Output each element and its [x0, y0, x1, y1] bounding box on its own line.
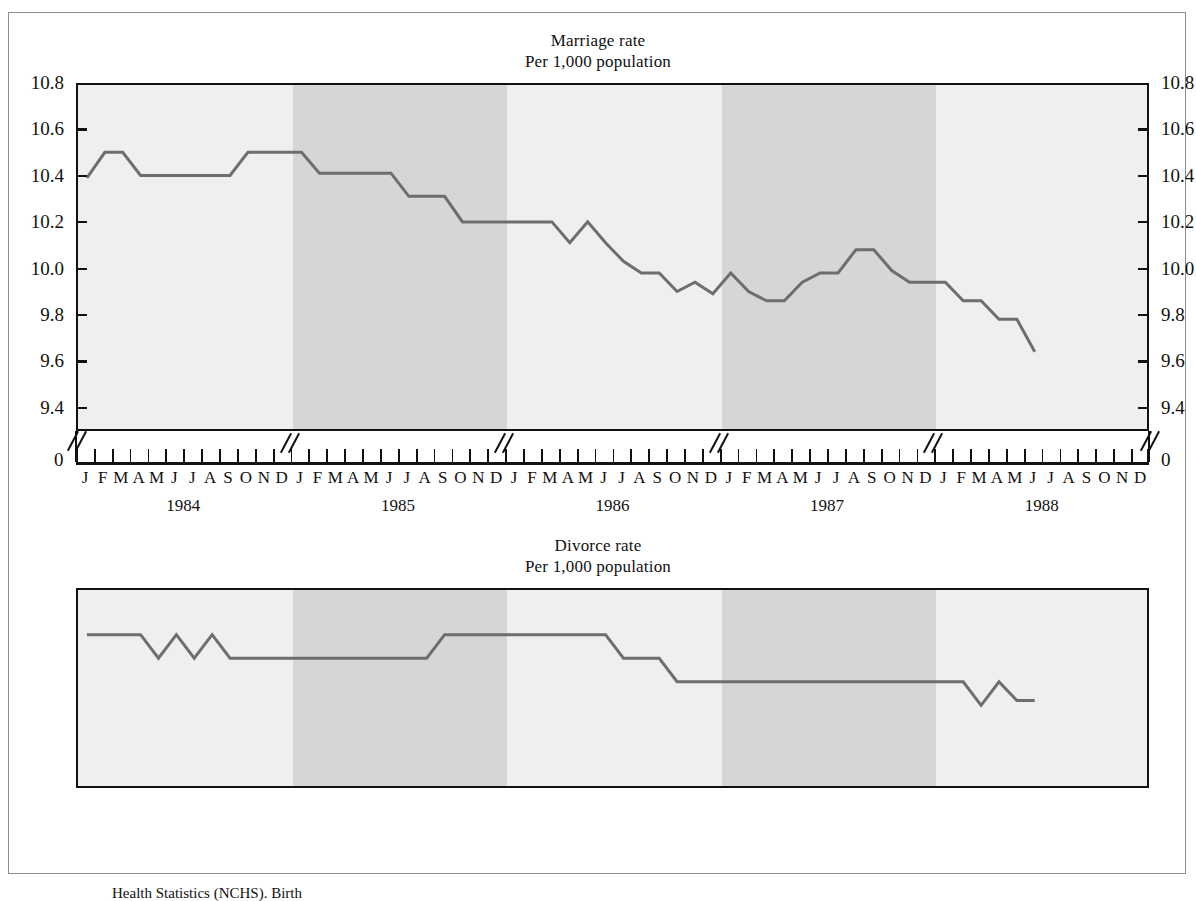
y-tick-label-right: 10.2 — [1161, 212, 1196, 231]
x-tick-mark — [434, 449, 436, 462]
x-tick-mark — [899, 449, 901, 462]
x-tick-mark — [183, 449, 185, 462]
x-tick-mark — [380, 449, 382, 462]
chart-title-divorce: Divorce rate — [0, 535, 1196, 556]
x-tick-mark — [648, 449, 650, 462]
chart-panel-divorce: Divorce rate Per 1,000 population 5.25.2… — [0, 510, 1196, 890]
y-tick-mark — [1138, 314, 1149, 316]
y-tick-label-right: 10.6 — [1161, 119, 1196, 138]
y-tick-label-right: 9.6 — [1161, 351, 1196, 370]
y-tick-mark — [1138, 221, 1149, 223]
x-tick-mark — [613, 449, 615, 462]
x-tick-mark — [165, 449, 167, 462]
x-axis-break-mark — [921, 428, 947, 458]
x-axis-break-mark — [492, 428, 518, 458]
y-tick-mark — [76, 360, 87, 362]
x-tick-mark — [881, 449, 883, 462]
x-tick-mark — [684, 449, 686, 462]
x-tick-mark — [523, 449, 525, 462]
y-tick-label-right: 10.8 — [1161, 73, 1196, 92]
x-tick-mark — [756, 449, 758, 462]
x-tick-mark — [487, 449, 489, 462]
x-tick-mark — [970, 449, 972, 462]
y-tick-label-right: 10.4 — [1161, 166, 1196, 185]
x-axis-break-mark — [707, 428, 733, 458]
x-tick-mark — [219, 449, 221, 462]
chart-title-marriage: Marriage rate — [0, 30, 1196, 51]
x-tick-mark — [773, 449, 775, 462]
x-tick-mark — [148, 449, 150, 462]
x-tick-mark — [469, 449, 471, 462]
x-tick-mark — [344, 449, 346, 462]
page-root: Marriage rate Per 1,000 population 10.81… — [0, 0, 1196, 901]
x-tick-mark — [541, 449, 543, 462]
x-axis-break-mark — [278, 428, 304, 458]
y-tick-mark — [76, 268, 87, 270]
x-tick-mark — [1131, 449, 1133, 462]
y-tick-label-right: 10.0 — [1161, 259, 1196, 278]
x-tick-mark — [94, 449, 96, 462]
chart-subtitle-divorce: Per 1,000 population — [0, 556, 1196, 577]
x-tick-mark — [1113, 449, 1115, 462]
y-tick-label-left: 10.8 — [0, 73, 64, 92]
x-tick-mark — [273, 449, 275, 462]
x-tick-mark — [130, 449, 132, 462]
y-tick-mark — [1138, 175, 1149, 177]
x-tick-mark — [362, 449, 364, 462]
series-line-divorce — [78, 590, 1149, 788]
y-tick-label-left: 10.2 — [0, 212, 64, 231]
x-tick-mark — [845, 449, 847, 462]
x-tick-mark — [630, 449, 632, 462]
y-tick-label-left: 10.6 — [0, 119, 64, 138]
y-tick-mark — [1138, 407, 1149, 409]
y-tick-mark — [76, 314, 87, 316]
x-tick-mark — [917, 449, 919, 462]
x-tick-mark — [738, 449, 740, 462]
x-tick-mark — [791, 449, 793, 462]
x-tick-mark — [952, 449, 954, 462]
x-axis-line — [76, 462, 1149, 465]
y-tick-label-left: 10.4 — [0, 166, 64, 185]
y-axis-zero-label: 0 — [54, 450, 64, 469]
x-tick-mark — [255, 449, 257, 462]
x-tick-mark — [577, 449, 579, 462]
series-line-marriage — [78, 85, 1149, 431]
x-tick-mark — [1077, 449, 1079, 462]
y-tick-label-left: 9.6 — [0, 351, 64, 370]
x-tick-mark — [416, 449, 418, 462]
y-tick-mark — [1138, 268, 1149, 270]
y-tick-mark — [76, 407, 87, 409]
plot-area-marriage — [76, 83, 1149, 431]
x-tick-mark — [988, 449, 990, 462]
x-tick-mark — [308, 449, 310, 462]
x-tick-mark — [1060, 449, 1062, 462]
x-tick-mark — [702, 449, 704, 462]
y-tick-label-right: 9.8 — [1161, 305, 1196, 324]
x-tick-mark — [112, 449, 114, 462]
x-tick-mark — [201, 449, 203, 462]
x-tick-mark — [1024, 449, 1026, 462]
y-tick-label-left: 9.8 — [0, 305, 64, 324]
y-tick-label-left: 9.4 — [0, 398, 64, 417]
chart-subtitle-marriage: Per 1,000 population — [0, 51, 1196, 72]
x-tick-mark — [559, 449, 561, 462]
x-month-label: D — [1126, 468, 1154, 487]
chart-panel-marriage: Marriage rate Per 1,000 population 10.81… — [0, 0, 1196, 510]
y-tick-mark — [76, 128, 87, 130]
x-tick-mark — [1006, 449, 1008, 462]
y-tick-label-right: 9.4 — [1161, 398, 1196, 417]
plot-area-divorce — [76, 588, 1149, 788]
y-tick-label-left: 10.0 — [0, 259, 64, 278]
x-tick-mark — [595, 449, 597, 462]
y-tick-mark — [1138, 360, 1149, 362]
x-tick-mark — [76, 449, 78, 462]
x-tick-mark — [1042, 449, 1044, 462]
y-tick-mark — [76, 175, 87, 177]
x-tick-mark — [863, 449, 865, 462]
x-tick-mark — [1147, 449, 1149, 462]
x-tick-mark — [398, 449, 400, 462]
figure-caption: Health Statistics (NCHS). Birth — [0, 884, 1196, 901]
x-tick-mark — [1095, 449, 1097, 462]
y-tick-mark — [76, 221, 87, 223]
y-axis-zero-label: 0 — [1161, 450, 1171, 469]
